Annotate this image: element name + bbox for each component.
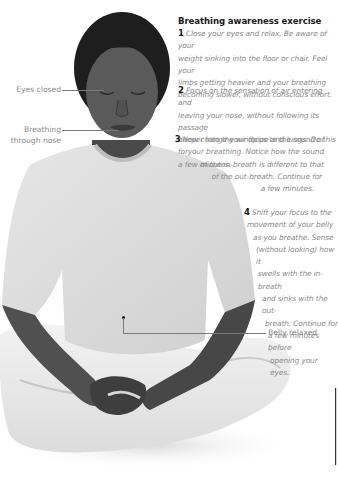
step-1-line: Close your eyes and relax. Be aware of y…	[178, 29, 327, 50]
breathing-label-line1: Breathing	[0, 124, 61, 135]
step-4-line: Shift your focus to the	[252, 208, 332, 217]
eyes-closed-leader-line	[62, 90, 104, 91]
step-1-line: weight sinking into the floor or chair. …	[178, 53, 338, 78]
step-2-line: Focus on the sensation of air entering a…	[178, 86, 322, 107]
step-4-line: and sinks with the out-	[244, 293, 338, 318]
step-3-line: of the in-breath is different to that	[160, 159, 324, 171]
step-2-line: leaving your nose, without following its…	[178, 110, 338, 135]
step-4: 4Shift your focus to the movement of you…	[244, 206, 338, 379]
eyes-closed-label: Eyes closed	[0, 84, 61, 95]
step-4-line: as you breathe. Sense	[244, 232, 338, 244]
belly-leader-vertical	[123, 318, 124, 333]
breathing-label: Breathing through nose	[0, 124, 61, 146]
step-3-line: your breathing. Notice how the sound	[160, 146, 324, 158]
step-1-number: 1	[178, 28, 184, 38]
step-3: 3Now change your focus to the sound of y…	[160, 133, 324, 195]
step-4-line: movement of your belly	[244, 219, 338, 231]
step-3-line: of the out-breath. Continue for	[160, 171, 322, 183]
step-4-line: a few minutes before	[244, 330, 338, 355]
breathing-leader-line	[62, 130, 118, 131]
exercise-title: Breathing awareness exercise	[178, 16, 321, 26]
step-4-number: 4	[244, 207, 250, 217]
step-3-line: a few minutes.	[160, 183, 314, 195]
step-4-line: breath. Continue for	[244, 318, 338, 330]
step-2-number: 2	[178, 85, 184, 95]
step-4-line: (without looking) how it	[244, 244, 338, 269]
step-3-line: Now change your focus to the sound of	[183, 135, 324, 144]
step-4-line: swells with the in-breath	[244, 268, 338, 293]
breathing-label-line2: through nose	[0, 135, 61, 146]
step-4-line: opening your eyes.	[244, 355, 338, 380]
step-3-number: 3	[175, 134, 181, 144]
